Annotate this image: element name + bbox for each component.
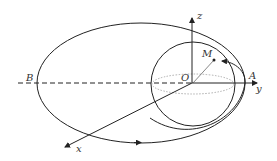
point-m — [213, 59, 216, 62]
radius-om — [193, 60, 214, 83]
label-b: B — [25, 72, 33, 83]
label-x: x — [76, 143, 82, 154]
inner-orbit-arc — [150, 83, 245, 129]
sphere-outline — [151, 42, 235, 126]
x-axis — [65, 83, 192, 147]
label-m: M — [201, 48, 213, 59]
orbit-diagram: z M O A y B x — [0, 0, 277, 161]
label-o: O — [181, 72, 189, 83]
sphere-equator — [152, 74, 234, 94]
label-a: A — [248, 70, 256, 81]
label-z: z — [196, 10, 203, 21]
label-y: y — [255, 83, 262, 94]
diagram-canvas: z M O A y B x — [0, 0, 277, 161]
